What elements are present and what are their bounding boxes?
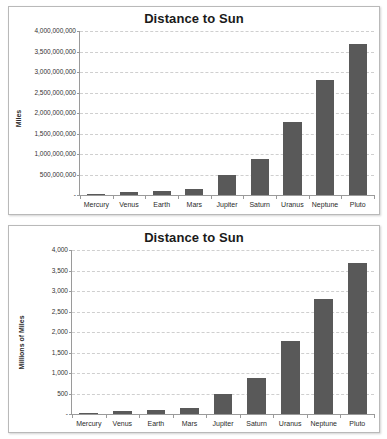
y-tick-label: 1,500 <box>52 349 68 356</box>
x-axis-ticks <box>80 195 374 200</box>
y-tick-label: 4,000 <box>52 247 68 254</box>
x-tick-label: Mars <box>178 201 211 208</box>
y-tick-label: 3,500 <box>52 267 68 274</box>
x-axis-ticks <box>72 414 374 419</box>
y-tick-label: 1,500,000,000 <box>34 130 76 137</box>
x-tick-mark <box>309 195 310 199</box>
bar <box>251 159 269 195</box>
chart-title: Distance to Sun <box>9 11 379 26</box>
x-tick-label: Saturn <box>243 201 276 208</box>
y-tick-label: 3,000,000,000 <box>34 69 76 76</box>
bar <box>281 341 300 414</box>
x-tick-label: Saturn <box>240 420 274 427</box>
bar-slot <box>206 250 240 414</box>
plot-area: -5001,0001,5002,0002,5003,0003,5004,000 … <box>71 250 374 415</box>
x-tick-mark <box>178 195 179 199</box>
bar-slot <box>145 31 178 195</box>
x-tick-mark <box>307 414 308 418</box>
bar-slot <box>307 250 341 414</box>
x-tick-mark <box>72 414 73 418</box>
x-tick-mark <box>340 414 341 418</box>
y-tick-label: 2,500,000,000 <box>34 89 76 96</box>
x-tick-mark <box>206 414 207 418</box>
x-axis-labels: MercuryVenusEarthMarsJupiterSaturnUranus… <box>80 201 374 208</box>
bar <box>214 394 233 414</box>
y-tick-label: 3,000 <box>52 288 68 295</box>
bar-series <box>72 250 374 414</box>
plot-area: -500,000,0001,000,000,0001,500,000,0002,… <box>79 31 374 196</box>
x-tick-mark <box>80 195 81 199</box>
x-tick-mark <box>113 195 114 199</box>
x-tick-mark <box>276 195 277 199</box>
bar-slot <box>106 250 140 414</box>
x-tick-mark <box>341 195 342 199</box>
bar-slot <box>113 31 146 195</box>
x-tick-label: Pluto <box>341 420 375 427</box>
y-tick-label: 2,500 <box>52 308 68 315</box>
y-axis-title: Miles <box>15 93 22 145</box>
bar-slot <box>211 31 244 195</box>
bar <box>283 122 301 195</box>
bar-slot <box>341 31 374 195</box>
x-tick-label: Venus <box>106 420 140 427</box>
bar <box>218 175 236 195</box>
x-tick-label: Venus <box>113 201 146 208</box>
y-tick-label: 2,000,000,000 <box>34 110 76 117</box>
x-tick-mark <box>173 414 174 418</box>
x-tick-label: Jupiter <box>206 420 240 427</box>
x-tick-label: Pluto <box>341 201 374 208</box>
bar-slot <box>240 250 274 414</box>
bar-slot <box>139 250 173 414</box>
y-tick-label: 2,000 <box>52 329 68 336</box>
chart-title: Distance to Sun <box>9 230 379 245</box>
bar-slot <box>243 31 276 195</box>
bar <box>348 263 367 414</box>
bar <box>247 378 266 414</box>
x-axis-labels: MercuryVenusEarthMarsJupiterSaturnUranus… <box>72 420 374 427</box>
x-tick-label: Mars <box>173 420 207 427</box>
chart-distance-to-sun-miles: Distance to Sun Miles -500,000,0001,000,… <box>8 6 380 215</box>
bar-slot <box>72 250 106 414</box>
x-tick-mark <box>374 195 375 199</box>
y-tick-label: - <box>74 192 76 199</box>
bar-slot <box>309 31 342 195</box>
x-tick-label: Uranus <box>276 201 309 208</box>
y-tick-label: 500,000,000 <box>40 171 76 178</box>
y-axis-title: Millions of Miles <box>18 307 25 379</box>
chart-distance-to-sun-millions: Distance to Sun Millions of Miles -5001,… <box>8 225 380 433</box>
x-tick-label: Earth <box>145 201 178 208</box>
x-tick-mark <box>145 195 146 199</box>
bar-slot <box>173 250 207 414</box>
x-tick-label: Earth <box>139 420 173 427</box>
bar-series <box>80 31 374 195</box>
x-tick-label: Neptune <box>309 201 342 208</box>
x-tick-mark <box>374 414 375 418</box>
y-tick-label: 500 <box>57 390 68 397</box>
bar-slot <box>80 31 113 195</box>
x-tick-mark <box>139 414 140 418</box>
bar <box>316 80 334 195</box>
x-tick-mark <box>243 195 244 199</box>
y-tick-label: 1,000,000,000 <box>34 151 76 158</box>
bar-slot <box>273 250 307 414</box>
x-tick-mark <box>273 414 274 418</box>
y-tick-label: - <box>66 411 68 418</box>
y-tick-label: 4,000,000,000 <box>34 28 76 35</box>
bar <box>314 299 333 414</box>
bar-slot <box>276 31 309 195</box>
chart-page: Distance to Sun Miles -500,000,0001,000,… <box>0 0 387 439</box>
x-tick-label: Jupiter <box>211 201 244 208</box>
bar <box>349 44 367 195</box>
x-tick-label: Mercury <box>80 201 113 208</box>
y-tick-label: 1,000 <box>52 370 68 377</box>
x-tick-label: Neptune <box>307 420 341 427</box>
bar-slot <box>341 250 375 414</box>
bar-slot <box>178 31 211 195</box>
y-tick-label: 3,500,000,000 <box>34 48 76 55</box>
x-tick-mark <box>240 414 241 418</box>
x-tick-label: Mercury <box>72 420 106 427</box>
x-tick-label: Uranus <box>273 420 307 427</box>
x-tick-mark <box>106 414 107 418</box>
x-tick-mark <box>211 195 212 199</box>
